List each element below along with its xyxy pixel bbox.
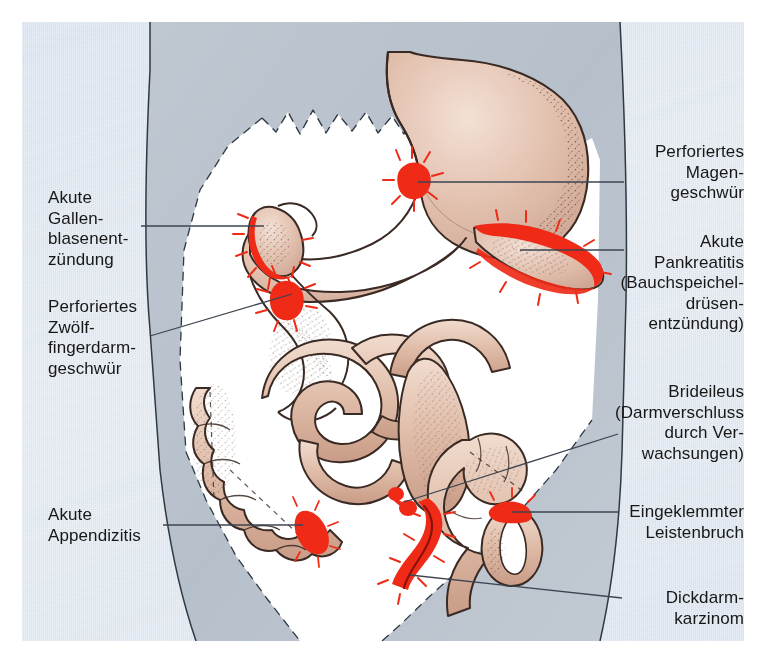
label-text: Akute Gallen- blasenent- zündung [48,188,128,269]
label-akute-cholezystitis: Akute Gallen- blasenent- zündung [48,188,188,270]
label-eingeklemmter-leistenbruch: Eingeklemmter Leistenbruch [558,502,744,543]
label-text: Perforiertes Zwölf- fingerdarm- geschwür [48,297,137,378]
label-akute-pankreatitis: Akute Pankreatitis (Bauchspeichel- drüse… [558,232,744,335]
label-text: Akute Pankreatitis (Bauchspeichel- drüse… [621,232,744,333]
label-text: Dickdarm- karzinom [666,588,744,628]
label-dickdarmkarzinom: Dickdarm- karzinom [558,588,744,629]
anatomical-figure: Akute Gallen- blasenent- zündung Perfori… [0,0,766,663]
label-text: Eingeklemmter Leistenbruch [629,502,744,542]
label-perforiertes-duodenalgeschwuer: Perforiertes Zwölf- fingerdarm- geschwür [48,297,198,379]
label-text: Perforiertes Magen- geschwür [655,142,744,202]
label-akute-appendizitis: Akute Appendizitis [48,505,208,546]
label-text: Brideileus (Darmverschluss durch Ver- wa… [615,382,744,463]
label-perforiertes-magengeschwuer: Perforiertes Magen- geschwür [572,142,744,204]
label-brideileus: Brideileus (Darmverschluss durch Ver- wa… [558,382,744,464]
label-text: Akute Appendizitis [48,505,141,545]
